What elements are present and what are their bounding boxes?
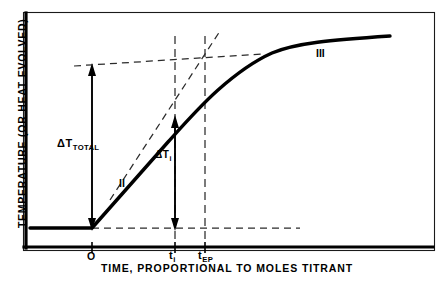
thermometric-titration-figure: TEMPERATURE (OR HEAT EVOLVED) TIME, PROP… — [0, 0, 446, 285]
delta-t-i-label: ΔTi — [155, 150, 172, 160]
delta-t-i-subscript: i — [170, 155, 172, 162]
delta-i-arrowhead-down — [171, 218, 179, 231]
x-tick-label-tep: tEP — [198, 250, 213, 261]
region-label-three: III — [316, 48, 325, 59]
linear-rise-tangent-dashed — [110, 31, 220, 200]
titration-curve — [30, 36, 390, 228]
x-tick-label-origin: O — [87, 251, 96, 262]
tick-tep-subscript: EP — [202, 255, 213, 264]
delta-t-total-base: ΔT — [57, 137, 73, 149]
region-label-two: II — [119, 178, 125, 189]
figure-frame — [24, 13, 435, 251]
plateau-extrapolation-dashed — [74, 54, 263, 66]
delta-t-total-subscript: TOTAL — [73, 143, 99, 152]
x-tick-label-ti: ti — [169, 250, 176, 261]
x-axis-label: TIME, PROPORTIONAL TO MOLES TITRANT — [57, 263, 397, 274]
delta-t-total-label: ΔTTOTAL — [57, 138, 99, 149]
delta-i-arrowhead-up — [171, 115, 179, 128]
delta-t-i-base: ΔT — [155, 149, 170, 160]
tick-ti-subscript: i — [173, 255, 175, 264]
y-axis-label: TEMPERATURE (OR HEAT EVOLVED) — [17, 18, 28, 228]
